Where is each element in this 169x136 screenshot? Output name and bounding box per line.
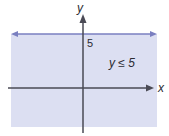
y-axis-label: y xyxy=(76,1,84,15)
y-intercept-tick-label: 5 xyxy=(87,37,93,49)
x-axis-label: x xyxy=(157,81,165,95)
inequality-annotation: y ≤ 5 xyxy=(108,56,135,70)
inequality-graph-figure: y x 5 y ≤ 5 xyxy=(0,0,169,136)
shaded-region xyxy=(11,34,157,127)
y-axis-arrowhead xyxy=(80,14,87,23)
